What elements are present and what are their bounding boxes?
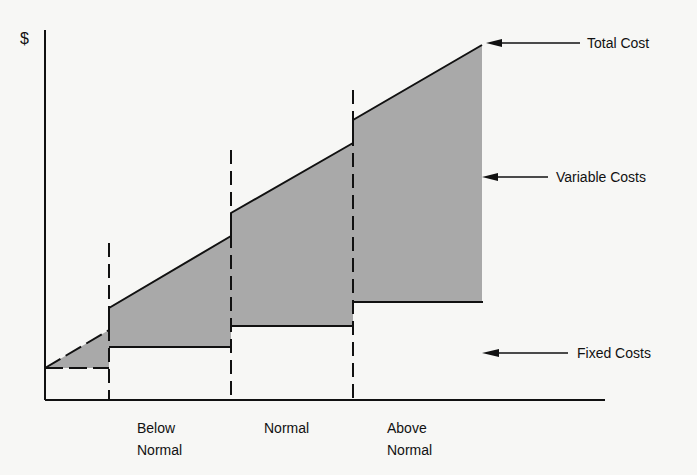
region-label-below-normal: Below Normal	[137, 417, 182, 461]
total-cost-label: Total Cost	[587, 32, 649, 54]
fixed-costs-arrow-icon	[482, 349, 568, 357]
variable-cost-area-3	[231, 143, 353, 326]
cost-diagram	[0, 0, 697, 475]
y-axis-label: $	[20, 28, 29, 50]
fixed-costs-label: Fixed Costs	[577, 342, 651, 364]
region-label-above-normal: Above Normal	[387, 417, 432, 461]
variable-costs-label: Variable Costs	[556, 166, 646, 188]
region-label-normal: Normal	[264, 417, 309, 439]
total-cost-arrow-icon	[486, 39, 580, 47]
variable-cost-area-2	[109, 236, 231, 347]
variable-costs-arrow-icon	[482, 173, 548, 181]
